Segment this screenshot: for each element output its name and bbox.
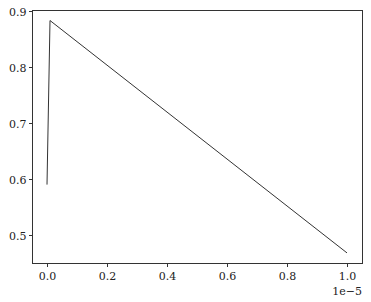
y-tick-label: 0.5 [9, 230, 27, 243]
x-tick-label: 1.0 [339, 270, 357, 283]
y-axis-ticks: 0.50.60.70.80.9 [9, 6, 33, 243]
plot-area-frame [33, 11, 363, 264]
x-tick-label: 0.2 [99, 270, 117, 283]
x-axis-offset-label: 1e−5 [332, 285, 362, 298]
y-tick-label: 0.6 [9, 174, 27, 187]
line-chart: 0.00.20.40.60.81.0 0.50.60.70.80.9 1e−5 [0, 0, 371, 302]
y-tick-label: 0.8 [9, 62, 27, 75]
x-tick-label: 0.8 [279, 270, 297, 283]
y-tick-label: 0.9 [9, 6, 27, 19]
x-tick-label: 0.0 [39, 270, 57, 283]
x-tick-label: 0.6 [219, 270, 237, 283]
x-tick-label: 0.4 [159, 270, 177, 283]
y-tick-label: 0.7 [9, 118, 27, 131]
x-axis-ticks: 0.00.20.40.60.81.0 [39, 264, 357, 283]
data-line [47, 21, 347, 253]
